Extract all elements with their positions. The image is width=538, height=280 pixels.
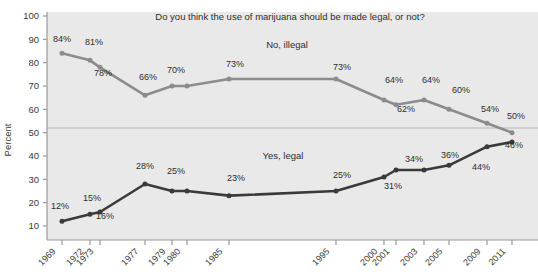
y-tick-label-40: 40	[28, 150, 39, 161]
data-label-legal-2000: 31%	[384, 181, 402, 191]
data-point-yeslegal-2001	[394, 168, 399, 173]
data-label-illegal-2003: 64%	[422, 75, 440, 85]
y-tick-label-30: 30	[28, 174, 39, 185]
data-point-yeslegal-1979	[170, 189, 175, 194]
data-label-legal-1979: 25%	[167, 166, 185, 176]
y-tick-label-60: 60	[28, 104, 39, 115]
data-label-legal-2005: 36%	[441, 150, 459, 160]
data-point-noillegal-2009	[485, 121, 490, 126]
data-label-illegal-1973: 78%	[94, 68, 112, 78]
data-point-noillegal-2011	[510, 130, 515, 135]
y-tick-label-50: 50	[28, 127, 39, 138]
chart-title: Do you think the use of marijuana should…	[155, 11, 424, 22]
y-tick-label-80: 80	[28, 57, 39, 68]
data-label-legal-1973: 16%	[96, 211, 114, 221]
data-point-noillegal-2000	[382, 98, 387, 103]
data-label-illegal-2009: 54%	[481, 104, 499, 114]
data-point-noillegal-1977	[143, 93, 148, 98]
data-point-noillegal-2005	[447, 107, 452, 112]
data-point-yeslegal-1980	[185, 189, 190, 194]
data-label-legal-1977: 28%	[136, 161, 154, 171]
series-label-yes-legal: Yes, legal	[263, 150, 304, 161]
data-point-noillegal-1980	[185, 84, 190, 89]
data-point-noillegal-1979	[170, 84, 175, 89]
data-label-legal-1972: 15%	[83, 193, 101, 203]
data-point-yeslegal-1985	[227, 193, 232, 198]
data-point-yeslegal-1972	[88, 212, 93, 217]
data-label-legal-2001: 34%	[405, 154, 423, 164]
data-point-yeslegal-2009	[485, 144, 490, 149]
data-point-noillegal-1972	[88, 58, 93, 63]
data-label-legal-1969: 12%	[51, 201, 69, 211]
data-label-illegal-1985: 73%	[226, 59, 244, 69]
data-label-illegal-2005: 60%	[452, 85, 470, 95]
data-point-noillegal-2003	[422, 98, 427, 103]
line-chart: 100908070605040302010 196919721973197719…	[0, 0, 538, 280]
data-label-illegal-1979: 70%	[167, 65, 185, 75]
data-point-noillegal-1995	[334, 77, 339, 82]
data-label-illegal-2001: 62%	[397, 104, 415, 114]
data-point-yeslegal-1969	[60, 219, 65, 224]
data-label-legal-2009: 44%	[472, 162, 490, 172]
data-label-illegal-1972: 81%	[85, 37, 103, 47]
data-label-illegal-1977: 66%	[139, 72, 157, 82]
series-label-no-illegal: No, illegal	[266, 39, 308, 50]
data-label-legal-2011: 46%	[505, 140, 523, 150]
data-label-illegal-1995: 73%	[333, 62, 351, 72]
data-label-illegal-1969: 84%	[53, 34, 71, 44]
data-label-illegal-2000: 64%	[385, 75, 403, 85]
data-label-illegal-2011: 50%	[507, 111, 525, 121]
data-label-legal-1995: 25%	[333, 170, 351, 180]
y-tick-label-90: 90	[28, 34, 39, 45]
data-point-yeslegal-2000	[382, 175, 387, 180]
data-point-noillegal-1969	[60, 51, 65, 56]
y-tick-label-10: 10	[28, 220, 39, 231]
y-tick-label-20: 20	[28, 197, 39, 208]
data-point-noillegal-1985	[227, 77, 232, 82]
y-tick-label-70: 70	[28, 80, 39, 91]
data-point-yeslegal-1977	[143, 182, 148, 187]
y-tick-label-100: 100	[23, 10, 39, 21]
data-point-yeslegal-2003	[422, 168, 427, 173]
data-label-legal-1985: 23%	[227, 173, 245, 183]
data-point-yeslegal-2005	[447, 163, 452, 168]
data-point-yeslegal-1995	[334, 189, 339, 194]
chart-container: 100908070605040302010 196919721973197719…	[0, 0, 538, 280]
y-axis-title: Percent	[2, 123, 13, 156]
